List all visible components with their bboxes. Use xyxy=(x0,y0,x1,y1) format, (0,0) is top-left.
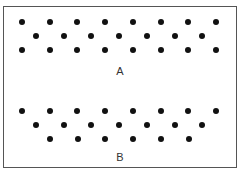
dot xyxy=(47,19,53,25)
diagram-frame xyxy=(3,6,237,168)
dot xyxy=(213,19,219,25)
dot xyxy=(47,136,53,142)
dot xyxy=(172,33,178,39)
dot xyxy=(186,136,192,142)
dot xyxy=(172,122,178,128)
figure-label-a: A xyxy=(116,65,123,77)
dot xyxy=(158,47,164,53)
dot xyxy=(47,108,53,114)
dot xyxy=(213,108,219,114)
dot xyxy=(213,47,219,53)
dot xyxy=(130,19,136,25)
dot xyxy=(61,33,67,39)
dot xyxy=(61,122,67,128)
dot xyxy=(19,47,25,53)
figure-label-b: B xyxy=(116,151,123,163)
dot xyxy=(47,47,53,53)
dot xyxy=(33,122,39,128)
dot xyxy=(158,136,164,142)
dot xyxy=(130,47,136,53)
dot xyxy=(158,19,164,25)
dot xyxy=(33,33,39,39)
dot xyxy=(144,122,150,128)
dot xyxy=(19,19,25,25)
dot xyxy=(75,136,81,142)
dot xyxy=(130,108,136,114)
dot xyxy=(19,108,25,114)
dot xyxy=(158,108,164,114)
dot xyxy=(144,33,150,39)
